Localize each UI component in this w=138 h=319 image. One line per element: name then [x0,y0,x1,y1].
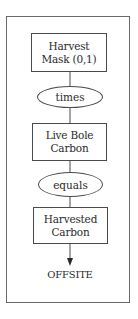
node-equals-label: equals [53,179,88,191]
node-harvest-mask-line-2: Mask (0,1) [42,53,97,66]
node-harvest-mask-line-1: Harvest [49,40,90,53]
node-live-bole-carbon: Live Bole Carbon [32,123,107,161]
node-live-bole-carbon-line-2: Carbon [51,142,89,155]
node-live-bole-carbon-line-1: Live Bole [46,129,94,142]
node-equals: equals [38,172,103,197]
node-offsite: OFFSITE [30,269,110,280]
node-harvested-carbon-line-1: Harvested [44,213,97,226]
node-harvested-carbon: Harvested Carbon [33,207,108,244]
node-times-label: times [55,91,84,103]
node-harvested-carbon-line-2: Carbon [52,226,90,239]
node-times: times [37,86,103,108]
node-harvest-mask: Harvest Mask (0,1) [31,33,107,72]
arrowhead-down-icon [67,258,73,266]
